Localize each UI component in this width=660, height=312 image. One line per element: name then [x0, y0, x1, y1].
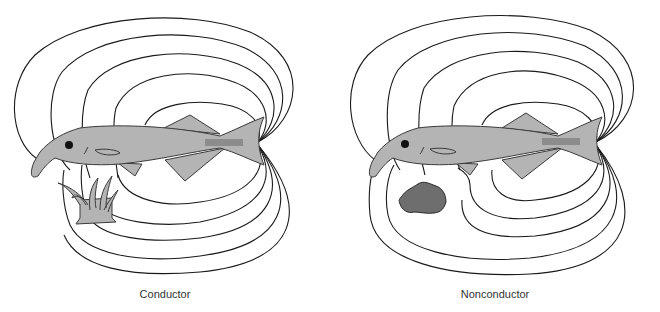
nonconductor-panel: Nonconductor [330, 0, 660, 312]
fish-eye [65, 141, 73, 149]
electric-organ [542, 138, 580, 145]
anal-fin [118, 163, 142, 176]
conductor-panel: Conductor [0, 0, 330, 312]
electric-fish [369, 113, 602, 179]
nonconductor-field-diagram [330, 0, 660, 285]
fish-eye [401, 140, 409, 148]
rock-nonconductor [399, 182, 446, 213]
nonconductor-caption: Nonconductor [330, 288, 660, 300]
electric-fish [31, 115, 264, 181]
conductor-field-diagram [0, 0, 330, 285]
conductor-caption: Conductor [0, 288, 330, 300]
electric-organ [205, 139, 243, 146]
